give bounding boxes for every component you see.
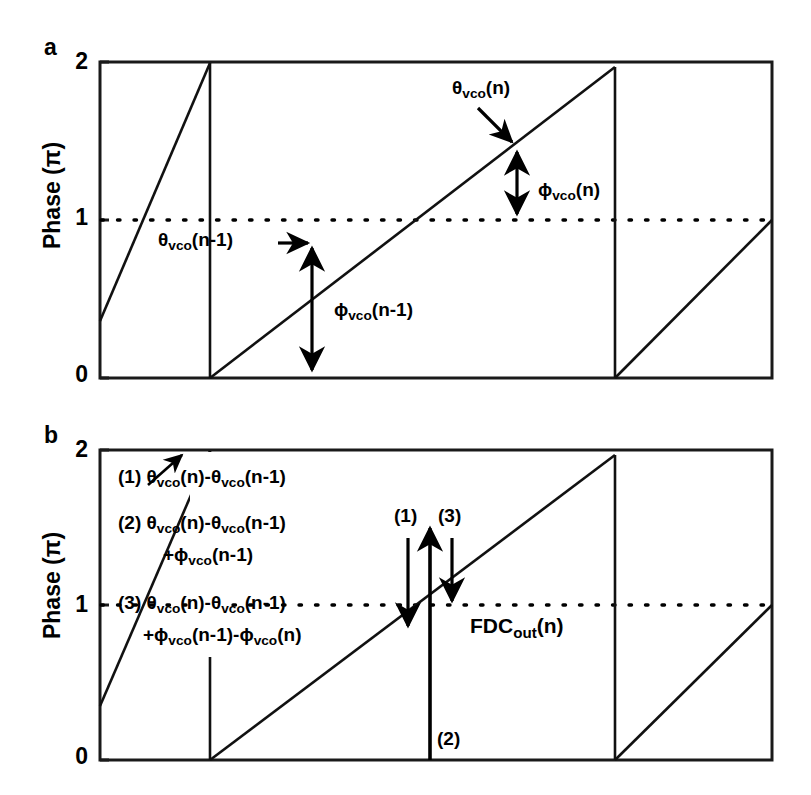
panel-b-legend-item-2: (2) θvco(n)-θvco(n-1) — [118, 513, 286, 537]
marker-2-text: (2) — [437, 728, 460, 749]
panel-b-legend-item-3-cont: +ϕvco(n-1)-ϕvco(n) — [143, 625, 301, 649]
panel-b-marker-3-label: (3) — [438, 506, 461, 526]
legend-2-line2: +ϕvco(n-1) — [163, 544, 253, 565]
panel-b-plot — [0, 0, 811, 795]
legend-3-line2: +ϕvco(n-1)-ϕvco(n) — [143, 624, 301, 645]
panel-b-legend-item-3: (3) θvco(n)-θvco(n-1) — [118, 593, 286, 617]
panel-b-marker-2-label: (2) — [437, 729, 460, 749]
panel-b-legend-item-2-cont: +ϕvco(n-1) — [163, 545, 253, 569]
legend-1-line1: (1) θvco(n)-θvco(n-1) — [118, 466, 286, 487]
legend-3-line1: (3) θvco(n)-θvco(n-1) — [118, 592, 286, 613]
phase-diagram-figure: a Phase (π) 2 1 0 — [0, 0, 811, 795]
panel-b-marker-1-label: (1) — [394, 506, 417, 526]
marker-3-text: (3) — [438, 505, 461, 526]
panel-b-legend-item-1: (1) θvco(n)-θvco(n-1) — [118, 467, 286, 491]
panel-b-fdc-out-label: FDCout(n) — [470, 615, 564, 641]
marker-1-text: (1) — [394, 505, 417, 526]
legend-2-line1: (2) θvco(n)-θvco(n-1) — [118, 512, 286, 533]
fdc-out-text: FDCout(n) — [470, 614, 564, 637]
